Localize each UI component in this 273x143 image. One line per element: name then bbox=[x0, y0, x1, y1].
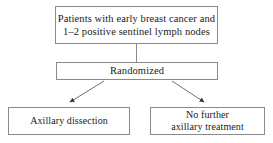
edge-randomized-to-no-further-treatment bbox=[172, 81, 204, 102]
node-no-further-treatment: No further axillary treatment bbox=[150, 107, 265, 135]
node-axillary-dissection: Axillary dissection bbox=[8, 107, 130, 135]
node-axillary-dissection-label: Axillary dissection bbox=[30, 115, 108, 128]
edge-randomized-to-axillary-dissection bbox=[70, 81, 104, 102]
node-population-label: Patients with early breast cancer and 1–… bbox=[58, 12, 215, 38]
node-randomized-label: Randomized bbox=[110, 64, 164, 77]
node-no-further-treatment-label: No further axillary treatment bbox=[171, 109, 244, 134]
flowchart-diagram: Patients with early breast cancer and 1–… bbox=[0, 0, 273, 143]
node-randomized: Randomized bbox=[56, 62, 218, 80]
node-population: Patients with early breast cancer and 1–… bbox=[55, 6, 218, 44]
